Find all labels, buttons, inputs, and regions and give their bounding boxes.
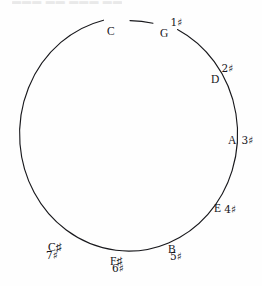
note-degree-a: 3♯ xyxy=(242,134,254,146)
note-degree-c-sharp: 7♯ xyxy=(46,250,58,261)
note-degree-f-sharp: 6♯ xyxy=(112,263,124,274)
node-label-c-sharp: C♯ 7♯ xyxy=(48,238,62,254)
note-name-e: E xyxy=(214,202,221,214)
note-degree-d: 2♯ xyxy=(222,63,234,74)
page-canvas: ▬▬▬ ▬▬ ▬▬▬ ▬▬ C G 1♯ D 2♯ xyxy=(0,0,262,286)
note-degree-g: 1♯ xyxy=(171,17,183,28)
note-name-a: A xyxy=(228,134,237,146)
node-label-b: B 5♯ xyxy=(168,240,176,256)
note-degree-b: 5♯ xyxy=(170,251,182,262)
node-label-e: E 4♯ xyxy=(214,199,221,215)
node-label-c: C xyxy=(107,22,115,38)
note-degree-e: 4♯ xyxy=(224,204,236,215)
note-name-d: D xyxy=(211,73,220,85)
circle-arc-c-to-g xyxy=(130,21,153,24)
note-name-c: C xyxy=(107,25,115,37)
circle-of-fifths-figure: C G 1♯ D 2♯ A3♯ E 4♯ xyxy=(0,0,262,286)
circle-of-fifths-svg xyxy=(0,0,262,286)
node-label-f-sharp: F♯ 6♯ xyxy=(110,252,123,268)
node-label-g: G 1♯ xyxy=(160,24,169,40)
circle-arc-main xyxy=(20,20,238,251)
node-label-d: D 2♯ xyxy=(211,70,220,86)
node-label-a: A3♯ xyxy=(228,131,253,147)
note-name-g: G xyxy=(160,27,169,39)
